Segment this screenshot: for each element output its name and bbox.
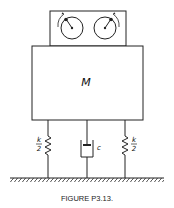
spring-right-k: k bbox=[132, 136, 137, 144]
spring-left: k 2 bbox=[36, 120, 51, 178]
damper: c bbox=[81, 120, 101, 178]
spring-left-2: 2 bbox=[37, 145, 42, 153]
figure-caption: FIGURE P3.13. bbox=[61, 194, 113, 203]
damper-label: c bbox=[97, 144, 101, 152]
spring-right: k 2 bbox=[122, 120, 137, 178]
spring-left-k: k bbox=[37, 136, 42, 144]
spring-right-2: 2 bbox=[132, 145, 137, 153]
mass-label: M bbox=[81, 76, 91, 89]
rotating-unbalance-box bbox=[50, 11, 126, 46]
ground bbox=[10, 178, 164, 182]
mass-block: M bbox=[32, 46, 143, 120]
vibration-system-diagram: M k 2 c k 2 FIGURE P3.13. bbox=[0, 0, 174, 208]
